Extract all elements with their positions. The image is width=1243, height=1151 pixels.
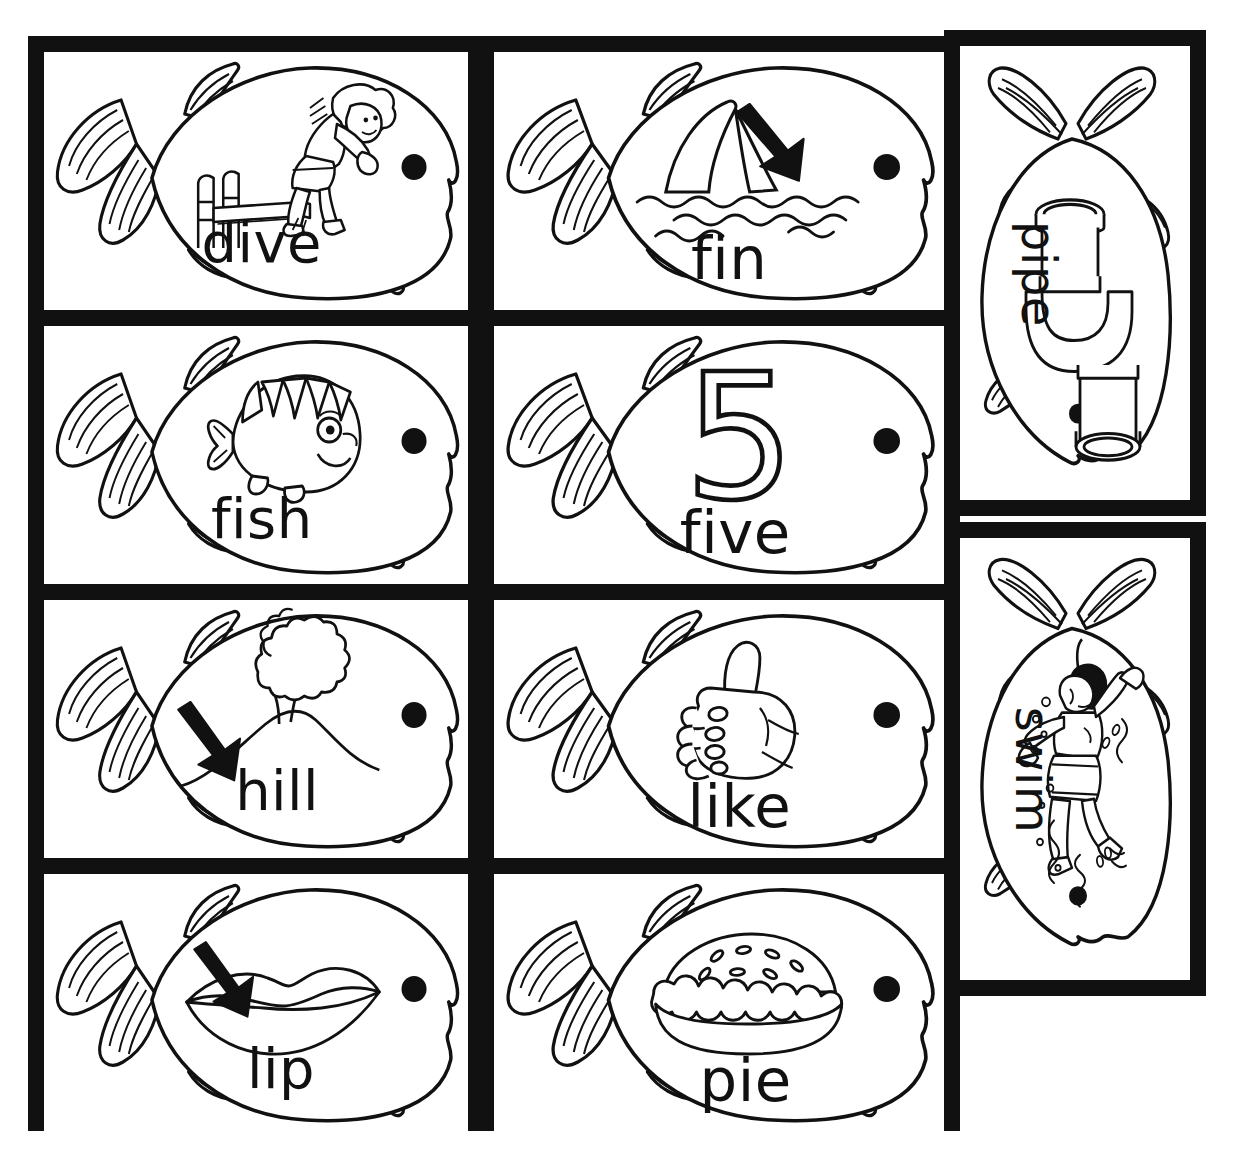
- word-text: like: [688, 772, 792, 841]
- word-label-pipe: pipe: [960, 46, 1190, 456]
- word-label-like: like: [494, 600, 944, 858]
- word-label-fin: fin: [494, 52, 944, 310]
- word-label-lip: lip: [44, 874, 468, 1123]
- word-label-fish: fish: [44, 326, 468, 575]
- card-fish[interactable]: fish: [44, 326, 468, 584]
- word-label-pie: pie: [494, 874, 944, 1132]
- word-text: lip: [247, 1036, 315, 1101]
- card-pipe[interactable]: pipe: [960, 46, 1190, 500]
- card-hill[interactable]: hill: [44, 600, 468, 858]
- word-text: swim: [1005, 707, 1061, 833]
- word-label-hill: hill: [44, 600, 468, 849]
- word-text: five: [680, 498, 791, 567]
- card-fin[interactable]: fin: [494, 52, 944, 310]
- word-text: fin: [691, 224, 767, 293]
- word-text: hill: [235, 758, 319, 823]
- word-text: dive: [202, 210, 322, 275]
- worksheet-sheet: dive: [0, 0, 1243, 1151]
- card-dive[interactable]: dive: [44, 52, 468, 310]
- word-label-dive: dive: [44, 52, 468, 301]
- card-lip[interactable]: lip: [44, 874, 468, 1132]
- word-label-swim: swim: [960, 538, 1190, 948]
- card-swim[interactable]: swim: [960, 538, 1190, 980]
- numeral-five: 5 five: [494, 326, 944, 584]
- card-five[interactable]: 5 five: [494, 326, 944, 584]
- word-text: pipe: [1011, 221, 1067, 327]
- word-text: pie: [700, 1046, 792, 1115]
- card-pie[interactable]: pie: [494, 874, 944, 1132]
- card-like[interactable]: like: [494, 600, 944, 858]
- word-text: fish: [211, 486, 313, 551]
